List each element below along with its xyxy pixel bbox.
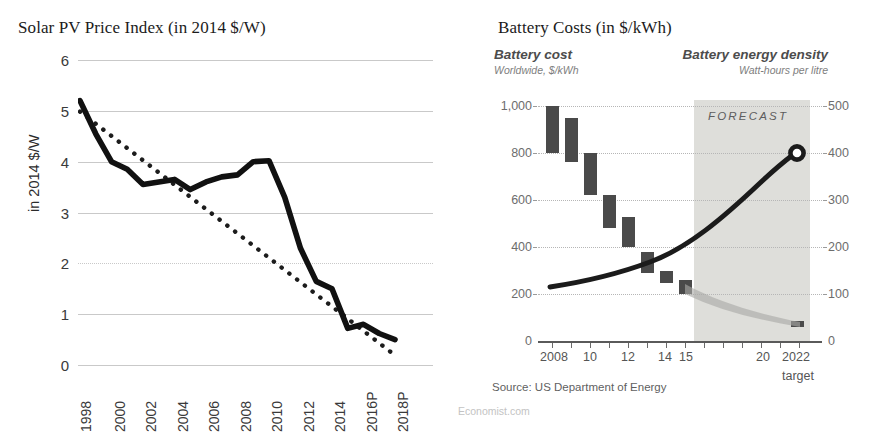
- econ-left-tick-dash-800: [533, 153, 537, 154]
- econ-y-left-0: 0: [525, 334, 532, 348]
- energy-density-subheader: Watt-hours per litre: [682, 65, 828, 76]
- x-tick-2006: 2006: [206, 401, 222, 432]
- econ-y-left-400: 400: [511, 240, 532, 254]
- battery-plot-area: FORECAST 200 400 60: [538, 106, 822, 341]
- left-chart-y-axis-title: in 2014 $/W: [26, 135, 42, 212]
- econ-y-right-0: 0: [828, 334, 835, 348]
- y-tick-5: 5: [61, 102, 69, 119]
- axis-tick-2012: [628, 343, 629, 348]
- econ-y-left-200: 200: [511, 287, 532, 301]
- axis-tick-2015: [685, 343, 686, 348]
- energy-density-curve: [550, 154, 794, 287]
- trendline-dotted: [80, 112, 395, 356]
- econ-y-right-300: 300: [828, 193, 849, 207]
- econ-right-tick-dash-400: [823, 153, 827, 154]
- axis-tick-2013: [647, 343, 648, 348]
- econ-x-2008: 2008: [540, 350, 568, 364]
- econ-right-tick-dash-300: [823, 200, 827, 201]
- econ-y-left-600: 600: [511, 193, 532, 207]
- battery-costs-chart-panel: Battery Costs (in $/kWh) Battery cost Wo…: [440, 0, 876, 446]
- econ-x-2022: 2022: [782, 350, 810, 364]
- econ-x-20: 20: [756, 350, 770, 364]
- energy-density-endpoint-marker: [790, 146, 803, 159]
- x-tick-2018P: 2018P: [395, 392, 411, 432]
- source-note: Source: US Department of Energy: [492, 381, 667, 393]
- right-chart-title: Battery Costs (in $/kWh): [498, 18, 672, 38]
- cost-forecast-band: [685, 284, 800, 327]
- econ-y-right-500: 500: [828, 99, 849, 113]
- econ-left-tick-dash-1000: [533, 106, 537, 107]
- y-tick-1: 1: [61, 306, 69, 323]
- solar-pv-series-svg: [78, 60, 433, 366]
- axis-tick-2014: [666, 343, 667, 348]
- axis-tick-2016: [704, 343, 705, 348]
- econ-right-tick-dash-500: [823, 106, 827, 107]
- axis-tick-2021: [799, 343, 800, 348]
- econ-left-tick-dash-200: [533, 294, 537, 295]
- x-tick-2012: 2012: [301, 401, 317, 432]
- battery-cost-header-label: Battery cost: [494, 47, 572, 62]
- econ-left-tick-dash-600: [533, 200, 537, 201]
- axis-tick-2011: [609, 343, 610, 348]
- econ-y-left-800: 800: [511, 146, 532, 160]
- econ-x-target-label: target: [782, 369, 814, 383]
- econ-left-tick-dash-400: [533, 247, 537, 248]
- econ-y-right-100: 100: [828, 287, 849, 301]
- econ-x-12: 12: [621, 350, 635, 364]
- axis-tick-2018: [742, 343, 743, 348]
- econ-header-row: Battery cost Worldwide, $/kWh Battery en…: [492, 48, 864, 82]
- axis-tick-2019: [761, 343, 762, 348]
- energy-density-header-label: Battery energy density: [682, 47, 828, 62]
- x-tick-2014: 2014: [332, 401, 348, 432]
- battery-series-svg: [538, 106, 822, 341]
- y-tick-4: 4: [61, 153, 69, 170]
- figure-page: Solar PV Price Index (in 2014 $/W) 0 1 2…: [0, 0, 876, 446]
- axis-tick-2010: [590, 343, 591, 348]
- econ-x-14: 14: [658, 350, 672, 364]
- x-tick-2002: 2002: [143, 401, 159, 432]
- x-tick-2010: 2010: [269, 401, 285, 432]
- econ-x-10: 10: [583, 350, 597, 364]
- econ-y-right-400: 400: [828, 146, 849, 160]
- econ-right-tick-dash-100: [823, 294, 827, 295]
- energy-density-header: Battery energy density Watt-hours per li…: [682, 48, 828, 75]
- axis-tick-2020: [780, 343, 781, 348]
- y-tick-2: 2: [61, 255, 69, 272]
- axis-tick-2017: [723, 343, 724, 348]
- y-tick-0: 0: [61, 357, 69, 374]
- y-tick-3: 3: [61, 204, 69, 221]
- solar-pv-chart-panel: Solar PV Price Index (in 2014 $/W) 0 1 2…: [0, 0, 440, 446]
- solar-pv-plot-area: 0 1 2 3 4 5 6 1998 2000 2002 2004 2006 2…: [78, 60, 433, 365]
- x-tick-2000: 2000: [112, 401, 128, 432]
- econ-right-tick-dash-200: [823, 247, 827, 248]
- y-tick-6: 6: [61, 52, 69, 69]
- battery-cost-subheader: Worldwide, $/kWh: [494, 65, 579, 76]
- axis-tick-2008: [552, 343, 553, 348]
- econ-y-right-200: 200: [828, 240, 849, 254]
- x-tick-2004: 2004: [175, 401, 191, 432]
- x-tick-2008: 2008: [238, 401, 254, 432]
- econ-x-15: 15: [679, 350, 693, 364]
- brand-credit: Economist.com: [458, 405, 530, 417]
- x-tick-1998: 1998: [78, 401, 94, 432]
- econ-y-left-1000: 1,000: [501, 99, 532, 113]
- battery-cost-header: Battery cost Worldwide, $/kWh: [494, 48, 579, 75]
- axis-tick-2009: [571, 343, 572, 348]
- left-chart-title: Solar PV Price Index (in 2014 $/W): [18, 18, 266, 38]
- x-tick-2016P: 2016P: [364, 392, 380, 432]
- economist-chart: Battery cost Worldwide, $/kWh Battery en…: [492, 48, 864, 438]
- price-index-line: [80, 101, 395, 340]
